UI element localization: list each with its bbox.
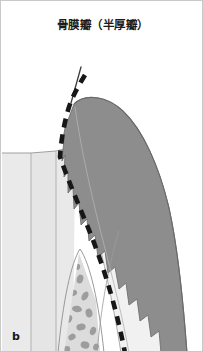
figure-panel: 骨膜瓣（半厚瓣） (0, 0, 203, 352)
alveolar-mucosa-middle-band (31, 151, 56, 352)
dental-cross-section-illustration (1, 1, 203, 352)
scalpel-blade-path-icon (71, 67, 81, 103)
panel-label: b (12, 331, 20, 342)
alveolar-mucosa-outer-band (2, 153, 31, 352)
